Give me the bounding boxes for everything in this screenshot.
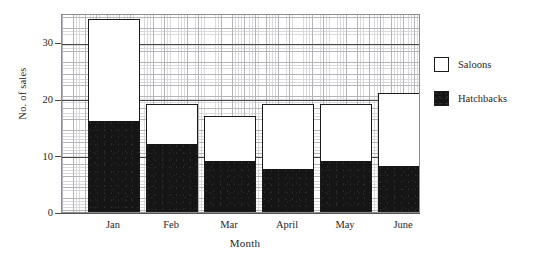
bar-may-hatchbacks [321,161,371,211]
x-tick-label-may: May [315,219,375,230]
bar-feb-saloons [147,105,197,144]
legend-label-saloons: Saloons [458,59,491,70]
x-axis-title: Month [185,237,305,249]
bar-jan-saloons [89,20,139,121]
bar-june-saloons [379,94,420,166]
legend-swatch-hatchbacks-icon [434,91,449,106]
bar-jan[interactable] [88,19,140,212]
chart-legend: Saloons Hatchbacks [434,57,507,125]
bar-june[interactable] [378,93,420,212]
y-tick-label-10: 10 [19,151,53,162]
bar-may[interactable] [320,104,372,212]
bar-feb[interactable] [146,104,198,212]
x-tick-label-jan: Jan [83,219,143,230]
y-tick-label-20: 20 [19,94,53,105]
plot-area [61,14,420,213]
bar-mar-hatchbacks [205,161,255,211]
bar-april-hatchbacks [263,169,313,211]
bar-feb-hatchbacks [147,144,197,211]
bar-mar-saloons [205,117,255,161]
bar-april-saloons [263,105,313,169]
legend-item-hatchbacks[interactable]: Hatchbacks [434,91,507,106]
bar-april[interactable] [262,104,314,212]
x-tick-label-mar: Mar [199,219,259,230]
bar-chart: No. of sales Month 30 20 10 0 [0,0,538,260]
bar-june-hatchbacks [379,166,420,211]
y-tick-label-0: 0 [19,207,53,218]
x-tick-label-june: June [373,219,433,230]
x-tick-label-april: April [257,219,317,230]
x-tick-label-feb: Feb [141,219,201,230]
x-axis-baseline [61,213,420,214]
bar-may-saloons [321,105,371,161]
legend-label-hatchbacks: Hatchbacks [458,93,507,104]
bar-jan-hatchbacks [89,121,139,211]
legend-item-saloons[interactable]: Saloons [434,57,507,72]
legend-swatch-saloons-icon [434,57,449,72]
y-tick-label-30: 30 [19,37,53,48]
bar-mar[interactable] [204,116,256,212]
